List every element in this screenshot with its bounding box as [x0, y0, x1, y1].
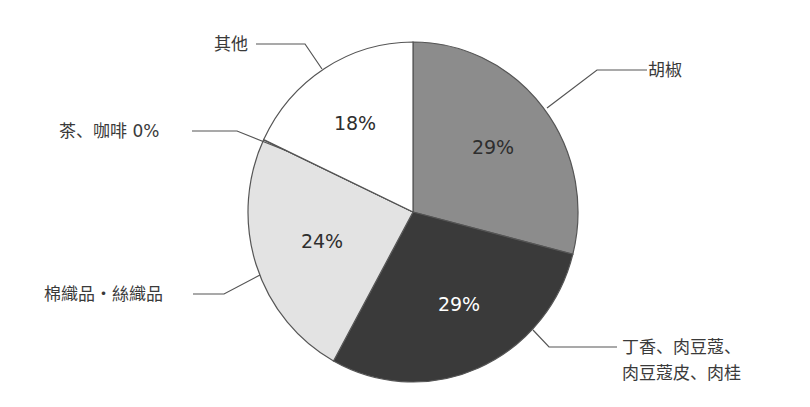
- leader-line-spices: [533, 330, 617, 347]
- label-spices-line1: 丁香、肉豆蔻、: [622, 335, 741, 359]
- leader-line-textiles: [193, 275, 260, 294]
- percent-spices: 29%: [438, 293, 480, 315]
- percent-pepper: 29%: [472, 136, 514, 158]
- percent-other: 18%: [334, 112, 376, 134]
- leader-line-pepper: [547, 70, 647, 108]
- label-spices-line2: 肉豆蔻皮、肉桂: [622, 361, 741, 385]
- label-tea-coffee: 茶、咖啡 0%: [59, 119, 159, 143]
- label-other: 其他: [214, 32, 248, 56]
- label-pepper: 胡椒: [648, 58, 682, 82]
- leader-line-other: [256, 44, 322, 69]
- percent-textiles: 24%: [301, 230, 343, 252]
- label-textiles: 棉織品・絲織品: [44, 282, 163, 306]
